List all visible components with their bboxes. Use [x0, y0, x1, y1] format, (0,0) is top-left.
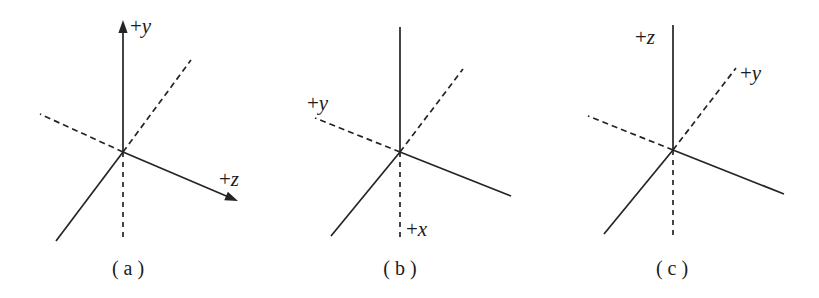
- axis-line-x-axis-lower-left-solid: [604, 150, 673, 234]
- axis-line-y-axis-negative-dashed: [40, 114, 123, 152]
- figure-root: +y+z( a )+y+x( b )+z+y( c ): [0, 0, 819, 298]
- panels-group: +y+z( a )+y+x( b )+z+y( c ): [40, 14, 784, 280]
- axis-label-y-axis-positive-dashed: +y: [307, 91, 329, 115]
- axis-label-y-axis-positive: +y: [130, 14, 152, 38]
- coordinate-systems-figure: +y+z( a )+y+x( b )+z+y( c ): [0, 0, 819, 298]
- axis-line-x-axis-positive-dashed: [123, 60, 191, 152]
- panel-c: +z+y( c ): [588, 25, 784, 280]
- panel-b: +y+x( b ): [307, 27, 511, 280]
- panel-caption-a: ( a ): [112, 257, 144, 280]
- axis-label-x-axis-positive-dashed: +x: [406, 217, 428, 241]
- axis-label-y-axis-positive-dashed: +y: [740, 61, 762, 85]
- axis-line-y-axis-negative-dashed: [588, 116, 673, 150]
- axis-line-z-axis-upper-right-dashed: [400, 69, 463, 152]
- axis-label-z-axis-positive: +z: [219, 167, 239, 191]
- axis-line-axis-lower-left-solid: [331, 152, 400, 236]
- axis-line-y-axis-positive-dashed: [673, 68, 736, 150]
- arrowhead-z-axis-positive: [224, 192, 238, 201]
- arrowhead-y-axis-positive: [118, 20, 127, 33]
- axis-line-x-axis-lower-right-solid: [673, 150, 784, 194]
- axis-line-z-axis-positive: [123, 152, 232, 198]
- panel-a: +y+z( a ): [40, 14, 239, 280]
- panel-caption-c: ( c ): [656, 257, 688, 280]
- axis-label-z-axis-positive-solid: +z: [635, 25, 655, 49]
- axis-line-x-axis-negative-solid: [56, 152, 123, 241]
- axis-line-y-axis-positive-dashed: [315, 118, 400, 152]
- axis-line-axis-lower-right-solid: [400, 152, 511, 196]
- panel-caption-b: ( b ): [383, 257, 416, 280]
